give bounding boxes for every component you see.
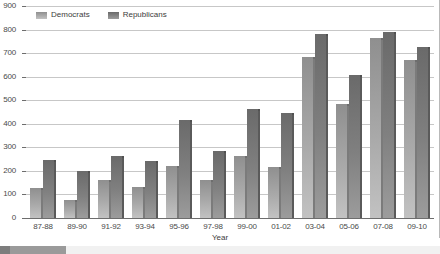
- bar-face: [281, 113, 292, 218]
- bar-face: [336, 104, 347, 218]
- y-axis-tick-label: 600: [0, 73, 16, 81]
- bar-democrats-95-96[interactable]: [166, 166, 179, 218]
- y-axis-tick-label: 900: [0, 2, 16, 10]
- bar-top: [360, 75, 362, 77]
- bar-side: [292, 113, 294, 218]
- y-axis-tick-label: 400: [0, 120, 16, 128]
- scrollbar-track[interactable]: [0, 246, 440, 254]
- bar-republicans-95-96[interactable]: [179, 120, 192, 218]
- bar-face: [30, 188, 41, 218]
- bar-face: [64, 200, 75, 218]
- y-axis-tick-mark: [22, 171, 26, 172]
- bar-face: [200, 180, 211, 218]
- y-axis-tick-mark: [22, 194, 26, 195]
- bar-top: [156, 161, 158, 163]
- bar-face: [234, 156, 245, 218]
- bar-face: [132, 187, 143, 218]
- bar-side: [394, 32, 396, 218]
- horizontal-scrollbar[interactable]: [0, 246, 440, 254]
- bar-face: [77, 171, 88, 218]
- bar-face: [166, 166, 177, 218]
- bar-face: [145, 161, 156, 218]
- bar-democrats-89-90[interactable]: [64, 200, 77, 218]
- bar-face: [43, 160, 54, 218]
- bar-democrats-03-04[interactable]: [302, 57, 315, 218]
- bar-top: [224, 151, 226, 153]
- bar-top: [428, 47, 430, 49]
- bar-face: [349, 75, 360, 218]
- bar-republicans-07-08[interactable]: [383, 32, 396, 218]
- bar-republicans-99-00[interactable]: [247, 109, 260, 218]
- bar-republicans-09-10[interactable]: [417, 47, 430, 218]
- y-axis-tick-label: 500: [0, 96, 16, 104]
- bar-group: [98, 6, 124, 218]
- bar-group: [268, 6, 294, 218]
- bar-democrats-99-00[interactable]: [234, 156, 247, 218]
- bar-face: [111, 156, 122, 218]
- bar-group: [404, 6, 430, 218]
- bar-top: [394, 32, 396, 34]
- bar-side: [88, 171, 90, 218]
- bar-face: [98, 180, 109, 218]
- bar-side: [224, 151, 226, 218]
- bar-group: [64, 6, 90, 218]
- bar-group: [132, 6, 158, 218]
- bar-democrats-93-94[interactable]: [132, 187, 145, 218]
- bar-face: [247, 109, 258, 218]
- bar-side: [428, 47, 430, 218]
- bar-side: [190, 120, 192, 218]
- bar-face: [383, 32, 394, 218]
- bar-face: [179, 120, 190, 218]
- bar-side: [54, 160, 56, 218]
- bar-side: [326, 34, 328, 218]
- y-axis-tick-mark: [22, 124, 26, 125]
- bar-democrats-01-02[interactable]: [268, 167, 281, 218]
- bar-top: [54, 160, 56, 162]
- y-axis-tick-mark: [22, 6, 26, 7]
- bar-republicans-97-98[interactable]: [213, 151, 226, 218]
- bar-democrats-97-98[interactable]: [200, 180, 213, 218]
- bar-republicans-03-04[interactable]: [315, 34, 328, 218]
- bar-democrats-91-92[interactable]: [98, 180, 111, 218]
- bar-democrats-87-88[interactable]: [30, 188, 43, 218]
- bar-top: [122, 156, 124, 158]
- bar-republicans-05-06[interactable]: [349, 75, 362, 218]
- bar-group: [30, 6, 56, 218]
- bar-democrats-09-10[interactable]: [404, 60, 417, 218]
- y-axis-tick-mark: [22, 77, 26, 78]
- bar-face: [268, 167, 279, 218]
- bar-face: [302, 57, 313, 218]
- x-axis-line: [26, 218, 434, 219]
- bar-top: [88, 171, 90, 173]
- bar-republicans-01-02[interactable]: [281, 113, 294, 218]
- bar-democrats-07-08[interactable]: [370, 38, 383, 218]
- bar-top: [292, 113, 294, 115]
- bar-republicans-89-90[interactable]: [77, 171, 90, 218]
- bar-group: [302, 6, 328, 218]
- y-axis-tick-label: 100: [0, 190, 16, 198]
- x-axis-title: Year: [0, 233, 440, 242]
- y-axis-tick-label: 200: [0, 167, 16, 175]
- bar-republicans-87-88[interactable]: [43, 160, 56, 218]
- bar-republicans-91-92[interactable]: [111, 156, 124, 218]
- bar-side: [258, 109, 260, 218]
- bar-republicans-93-94[interactable]: [145, 161, 158, 218]
- bar-side: [360, 75, 362, 218]
- bar-group: [336, 6, 362, 218]
- bar-face: [213, 151, 224, 218]
- bar-democrats-05-06[interactable]: [336, 104, 349, 218]
- bar-face: [404, 60, 415, 218]
- y-axis-tick-label: 0: [0, 214, 16, 222]
- y-axis-tick-label: 700: [0, 49, 16, 57]
- scrollbar-thumb-grip[interactable]: [0, 246, 10, 254]
- bar-group: [234, 6, 260, 218]
- scrollbar-thumb[interactable]: [0, 246, 66, 254]
- bar-face: [417, 47, 428, 218]
- y-axis-tick-mark: [22, 30, 26, 31]
- bar-group: [370, 6, 396, 218]
- bar-face: [315, 34, 326, 218]
- y-axis-tick-mark: [22, 100, 26, 101]
- y-axis-tick-mark: [22, 147, 26, 148]
- y-axis-tick-label: 800: [0, 26, 16, 34]
- bar-chart: Democrats Republicans 010020030040050060…: [0, 0, 440, 238]
